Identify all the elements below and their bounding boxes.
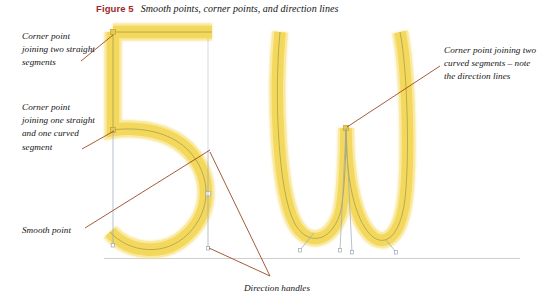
figure-container: Figure 5Smooth points, corner points, an… bbox=[0, 0, 544, 302]
direction-handle-endpoint-w-mid-right[interactable] bbox=[350, 251, 353, 254]
leader-line-direction-handles-b bbox=[209, 248, 270, 276]
direction-handle-endpoint-w-right-bowl[interactable] bbox=[394, 251, 397, 254]
direction-handle-endpoint-w-mid-left[interactable] bbox=[338, 249, 341, 252]
annotation-corner-two-straight: Corner point joining two straight segmen… bbox=[22, 30, 98, 70]
direction-handle-endpoint-w-left-bowl[interactable] bbox=[298, 249, 301, 252]
annotation-corner-one-straight-one-curved: Corner point joining one straight and on… bbox=[22, 101, 98, 154]
direction-handle-endpoint-5a[interactable] bbox=[111, 244, 114, 247]
annotation-corner-two-curved: Corner point joining two curved segments… bbox=[444, 44, 540, 84]
annotation-smooth-point: Smooth point bbox=[22, 224, 102, 237]
glyph-w bbox=[277, 32, 407, 240]
anchor-point-top-left-corner[interactable] bbox=[110, 29, 115, 34]
leader-line-corner-two-curved bbox=[347, 66, 440, 127]
annotation-direction-handles: Direction handles bbox=[222, 282, 332, 295]
leader-line-direction-handles-a bbox=[210, 152, 270, 276]
glyph-5 bbox=[110, 32, 212, 250]
